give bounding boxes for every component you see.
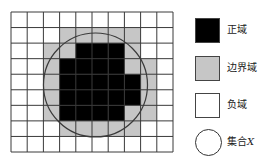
grid-cell <box>157 12 174 28</box>
grid-cell <box>157 28 174 44</box>
legend-label-positive: 正域 <box>227 24 247 36</box>
black-square-icon <box>195 18 220 43</box>
grid-cell <box>108 74 125 90</box>
grid-cell <box>124 59 140 75</box>
grid-cell <box>141 12 158 28</box>
grid-cell <box>43 28 60 44</box>
grid-cell <box>27 105 44 121</box>
grid-cell <box>141 121 158 137</box>
grid-cell <box>27 136 44 152</box>
grid-cell <box>108 90 125 106</box>
grid-cell <box>11 74 28 90</box>
grid-cell <box>92 74 109 90</box>
grid-cell <box>157 136 174 152</box>
grid-cell <box>76 59 93 75</box>
grid-cell <box>27 12 44 28</box>
grid-cell <box>60 136 77 152</box>
grid-cell <box>76 90 93 106</box>
circle-icon <box>195 129 222 156</box>
grid-cell <box>108 43 125 59</box>
grid-cell <box>124 121 140 137</box>
grid-cell <box>92 59 109 75</box>
grid-cell <box>11 59 28 75</box>
grid-cell <box>60 12 77 28</box>
gray-square-icon <box>195 56 220 81</box>
grid-cell <box>43 121 60 137</box>
grid-cell <box>60 59 77 75</box>
legend-item-negative-region: 负域 <box>195 93 267 120</box>
legend-label-negative: 负域 <box>227 99 247 111</box>
grid-cell <box>108 136 125 152</box>
white-square-icon <box>195 93 220 118</box>
grid-cell <box>11 90 28 106</box>
grid-cell <box>27 59 44 75</box>
grid-cell <box>124 28 140 44</box>
grid-cell <box>76 105 93 121</box>
legend-item-set-x: 集合X <box>195 130 267 157</box>
grid-cell <box>76 136 93 152</box>
grid-cell <box>76 43 93 59</box>
grid-cell <box>43 90 60 106</box>
grid-cell <box>141 105 158 121</box>
grid-cell <box>141 43 158 59</box>
grid-cell <box>60 90 77 106</box>
grid-cell <box>92 136 109 152</box>
grid-cell <box>11 12 28 28</box>
grid-cell <box>157 90 174 106</box>
grid-cell <box>108 59 125 75</box>
grid-cell <box>157 59 174 75</box>
legend-label-set-x: 集合X <box>227 136 254 148</box>
grid-cell <box>92 105 109 121</box>
grid-cell <box>60 105 77 121</box>
grid-cell <box>43 74 60 90</box>
grid-cell <box>92 121 109 137</box>
legend-label-boundary: 边界域 <box>227 62 257 74</box>
grid-cell <box>124 105 140 121</box>
grid-cell <box>27 121 44 137</box>
grid-cell <box>141 136 158 152</box>
grid-cell <box>27 74 44 90</box>
grid-cell <box>92 28 109 44</box>
grid-cell <box>124 12 140 28</box>
grid-cell <box>141 74 158 90</box>
grid-cell <box>11 28 28 44</box>
grid-cell <box>11 121 28 137</box>
grid-cell <box>157 121 174 137</box>
grid-cell <box>157 43 174 59</box>
grid-cell <box>92 90 109 106</box>
grid-cell <box>27 28 44 44</box>
grid-cell <box>11 105 28 121</box>
grid-cell <box>43 59 60 75</box>
legend-item-positive-region: 正域 <box>195 18 267 45</box>
grid-cell <box>108 105 125 121</box>
grid-cell <box>92 12 109 28</box>
grid-cell <box>141 28 158 44</box>
grid-cell <box>124 90 140 106</box>
grid-cell <box>157 74 174 90</box>
grid-cell <box>27 90 44 106</box>
grid-cell <box>60 74 77 90</box>
grid-cell <box>76 12 93 28</box>
grid-cell <box>27 43 44 59</box>
grid-cell <box>11 136 28 152</box>
grid-cell <box>76 74 93 90</box>
grid-cell <box>124 74 140 90</box>
grid-cell <box>92 43 109 59</box>
grid-cell <box>43 12 60 28</box>
grid-cell <box>157 105 174 121</box>
grid-cell <box>43 136 60 152</box>
grid-cell <box>124 136 140 152</box>
grid-cell <box>141 90 158 106</box>
grid-cell <box>141 59 158 75</box>
legend-item-boundary-region: 边界域 <box>195 56 267 83</box>
grid-cell <box>108 12 125 28</box>
grid-cell <box>11 43 28 59</box>
